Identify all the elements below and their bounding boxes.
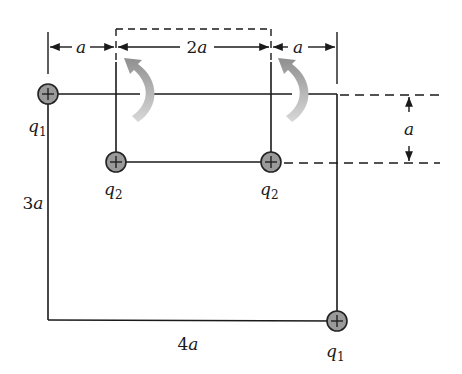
dim-label-a-right: a <box>293 37 303 57</box>
rotation-arrow-icon <box>124 58 155 122</box>
label-q2-left: q2 <box>104 179 123 202</box>
label-q1-top-left: q1 <box>28 116 47 139</box>
dashed-extension-lines <box>284 95 440 163</box>
label-3a: 3a <box>23 193 44 213</box>
dim-label-2a: 2a <box>187 37 208 57</box>
dim-label-a-vertical: a <box>404 119 414 139</box>
charge-q2-left <box>106 152 126 172</box>
charge-q1-top-left <box>38 84 58 104</box>
rotation-arrow-icon <box>278 58 309 122</box>
label-q1-bottom-right: q1 <box>326 341 345 364</box>
label-4a: 4a <box>178 334 199 354</box>
charge-q2-right <box>261 152 281 172</box>
label-q2-right: q2 <box>260 179 279 202</box>
charge-diagram: a 2a a a 3a 4a q1 q2 q2 q1 <box>0 0 462 374</box>
dim-label-a-left: a <box>76 37 86 57</box>
charge-q1-bottom-right <box>327 311 347 331</box>
outer-rectangle <box>48 94 337 321</box>
